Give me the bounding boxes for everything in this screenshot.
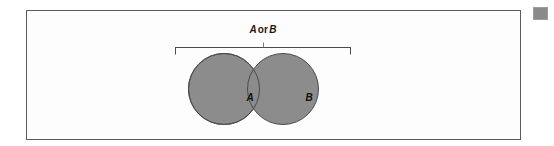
union-label-operator: or [257, 24, 269, 35]
union-label: AorB [175, 24, 351, 36]
set-b-circle [248, 54, 319, 125]
venn-diagram: AorB A B [27, 11, 522, 141]
figure-canvas: AorB A B [0, 0, 554, 146]
corner-swatch [533, 7, 548, 20]
set-b-label: B [299, 93, 319, 103]
figure-panel: AorB A B [26, 10, 521, 140]
union-label-right-operand: B [269, 24, 276, 35]
union-bracket [175, 43, 351, 55]
union-label-left-operand: A [249, 24, 256, 35]
set-a-label: A [240, 93, 260, 103]
